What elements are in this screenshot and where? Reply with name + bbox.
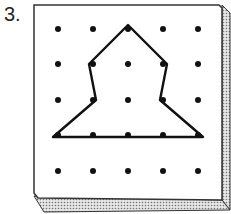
peg	[90, 26, 96, 32]
peg	[160, 26, 166, 32]
peg	[55, 26, 61, 32]
peg	[55, 168, 61, 174]
peg	[125, 97, 131, 103]
peg	[195, 26, 201, 32]
board-right-side	[222, 5, 230, 210]
peg	[195, 97, 201, 103]
peg	[125, 61, 131, 67]
peg	[125, 168, 131, 174]
peg	[55, 61, 61, 67]
peg	[90, 168, 96, 174]
peg	[160, 168, 166, 174]
peg	[195, 61, 201, 67]
peg	[55, 97, 61, 103]
geoboard-figure	[0, 0, 231, 214]
peg	[195, 168, 201, 174]
